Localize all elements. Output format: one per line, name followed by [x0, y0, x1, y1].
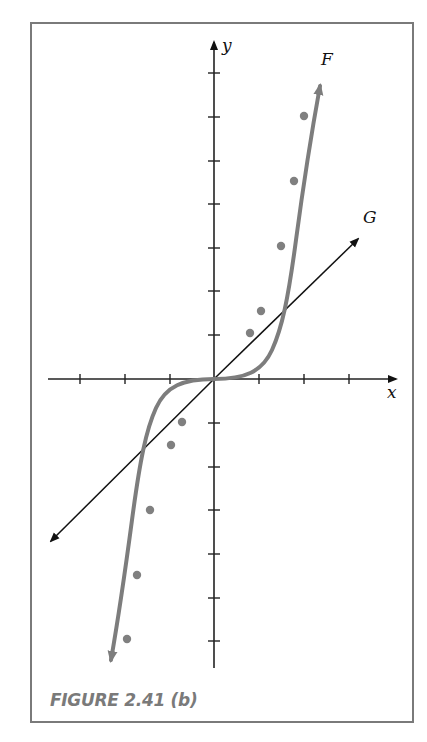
line-g-label: G	[363, 207, 377, 227]
x-axis-label: x	[387, 382, 397, 402]
plot-area	[0, 0, 427, 742]
data-point	[246, 329, 254, 337]
data-point	[123, 635, 131, 643]
y-axis	[208, 42, 220, 668]
curve-f-label: F	[321, 49, 333, 69]
curve-f	[214, 86, 320, 379]
data-point	[277, 242, 285, 250]
y-axis-label: y	[222, 35, 232, 55]
data-point	[300, 112, 308, 120]
data-point	[167, 441, 175, 449]
data-point	[133, 571, 141, 579]
data-point	[257, 307, 265, 315]
figure-caption: FIGURE 2.41 (b)	[50, 690, 197, 710]
curve-f-lower	[111, 379, 214, 660]
data-point	[290, 177, 298, 185]
data-point	[178, 418, 186, 426]
data-point	[146, 506, 154, 514]
